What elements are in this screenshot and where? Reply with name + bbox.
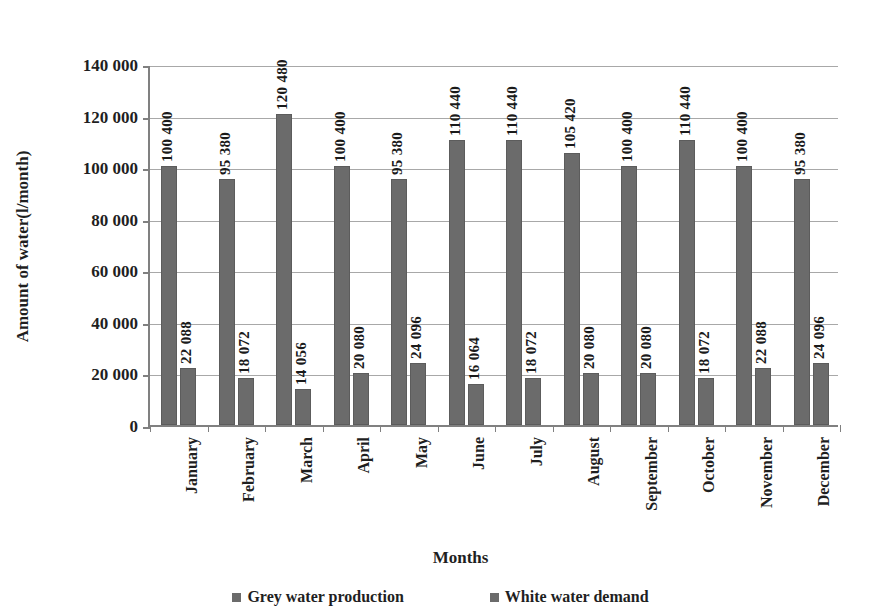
bar-white-water-demand — [238, 378, 254, 425]
x-axis-label-december: December — [816, 437, 832, 506]
x-axis-tick-mark — [380, 425, 381, 432]
bar-white-water-demand — [813, 363, 829, 425]
legend-label: Grey water production — [247, 588, 403, 606]
x-axis-tick-mark — [265, 425, 266, 432]
x-axis-label-november: November — [759, 437, 775, 508]
x-axis-tick-mark — [725, 425, 726, 432]
bar-white-water-demand — [468, 384, 484, 425]
bar-value-label: 110 440 — [678, 86, 693, 136]
gridline — [150, 221, 838, 222]
x-axis-tick-mark — [840, 425, 841, 432]
y-axis-tick-mark — [143, 66, 150, 68]
x-axis-tick-mark — [323, 425, 324, 432]
x-axis-label-september: September — [644, 437, 660, 511]
y-axis-tick-label: 120 000 — [0, 108, 138, 128]
y-axis-tick-mark — [143, 324, 150, 326]
bar-grey-water-production — [449, 140, 465, 425]
bar-value-label: 24 096 — [812, 316, 827, 359]
bar-grey-water-production — [564, 153, 580, 425]
bar-chart: Amount of water(l/month) 020 00040 00060… — [0, 0, 881, 613]
gridline — [150, 324, 838, 325]
bar-value-label: 100 400 — [620, 111, 635, 162]
y-axis-tick-mark — [143, 272, 150, 274]
plot-area: 100 40022 08895 38018 072120 48014 05610… — [148, 66, 838, 427]
bar-value-label: 22 088 — [179, 321, 194, 364]
y-axis-tick-mark — [143, 169, 150, 171]
bar-grey-water-production — [621, 166, 637, 425]
bar-value-label: 16 064 — [467, 337, 482, 380]
bar-value-label: 105 420 — [563, 98, 578, 149]
x-axis-title-text: Months — [433, 548, 489, 568]
x-axis-tick-mark — [208, 425, 209, 432]
legend-swatch-icon — [232, 593, 241, 602]
bar-value-label: 14 056 — [294, 342, 309, 385]
x-axis-label-may: May — [414, 437, 430, 468]
x-axis-tick-mark — [610, 425, 611, 432]
bar-white-water-demand — [583, 373, 599, 425]
x-axis-tick-mark — [783, 425, 784, 432]
y-axis-tick-mark — [143, 375, 150, 377]
x-axis-tick-mark — [150, 425, 151, 432]
y-axis-tick-label: 140 000 — [0, 56, 138, 76]
chart-legend: Grey water production White water demand — [0, 588, 881, 606]
bar-value-label: 95 380 — [218, 132, 233, 175]
bar-white-water-demand — [640, 373, 656, 425]
bar-value-label: 20 080 — [639, 326, 654, 369]
x-axis-tick-mark — [668, 425, 669, 432]
bar-white-water-demand — [353, 373, 369, 425]
legend-label: White water demand — [505, 588, 649, 606]
y-axis-tick-label: 0 — [0, 417, 138, 437]
bar-grey-water-production — [679, 140, 695, 425]
bar-grey-water-production — [219, 179, 235, 425]
x-axis-label-march: March — [299, 437, 315, 483]
x-axis-label-october: October — [701, 437, 717, 493]
y-axis-tick-mark — [143, 221, 150, 223]
bar-value-label: 95 380 — [793, 132, 808, 175]
legend-item-grey-water-production: Grey water production — [232, 588, 403, 606]
y-axis-tick-label: 20 000 — [0, 365, 138, 385]
bar-value-label: 110 440 — [448, 86, 463, 136]
bar-grey-water-production — [391, 179, 407, 425]
y-axis-tick-mark — [143, 427, 150, 429]
bar-value-label: 22 088 — [754, 321, 769, 364]
bar-value-label: 18 072 — [697, 331, 712, 374]
bar-value-label: 100 400 — [333, 111, 348, 162]
x-axis-tick-mark — [438, 425, 439, 432]
bar-value-label: 100 400 — [735, 111, 750, 162]
x-axis-label-february: February — [241, 437, 257, 502]
x-axis-tick-mark — [495, 425, 496, 432]
gridline — [150, 375, 838, 376]
y-axis-tick-label: 100 000 — [0, 159, 138, 179]
x-axis-label-july: July — [529, 437, 545, 466]
bar-white-water-demand — [698, 378, 714, 425]
x-axis-title: Months — [0, 548, 881, 568]
x-axis-label-june: June — [471, 437, 487, 470]
x-axis-tick-mark — [553, 425, 554, 432]
bar-value-label: 110 440 — [505, 86, 520, 136]
x-axis-label-august: August — [586, 437, 602, 486]
bar-white-water-demand — [180, 368, 196, 425]
bar-value-label: 120 480 — [275, 59, 290, 110]
bar-grey-water-production — [334, 166, 350, 425]
bar-grey-water-production — [794, 179, 810, 425]
bar-white-water-demand — [410, 363, 426, 425]
bar-value-label: 20 080 — [582, 326, 597, 369]
bar-value-label: 20 080 — [352, 326, 367, 369]
bar-value-label: 18 072 — [524, 331, 539, 374]
legend-swatch-icon — [490, 593, 499, 602]
bar-value-label: 24 096 — [409, 316, 424, 359]
bar-value-label: 100 400 — [160, 111, 175, 162]
bar-white-water-demand — [755, 368, 771, 425]
bar-grey-water-production — [506, 140, 522, 425]
gridline — [150, 169, 838, 170]
y-axis-tick-mark — [143, 118, 150, 120]
bar-grey-water-production — [736, 166, 752, 425]
bar-grey-water-production — [161, 166, 177, 425]
gridline — [150, 66, 838, 67]
legend-item-white-water-demand: White water demand — [490, 588, 649, 606]
bar-grey-water-production — [276, 114, 292, 425]
bar-value-label: 18 072 — [237, 331, 252, 374]
bar-value-label: 95 380 — [390, 132, 405, 175]
y-axis-tick-label: 80 000 — [0, 211, 138, 231]
bar-white-water-demand — [525, 378, 541, 425]
